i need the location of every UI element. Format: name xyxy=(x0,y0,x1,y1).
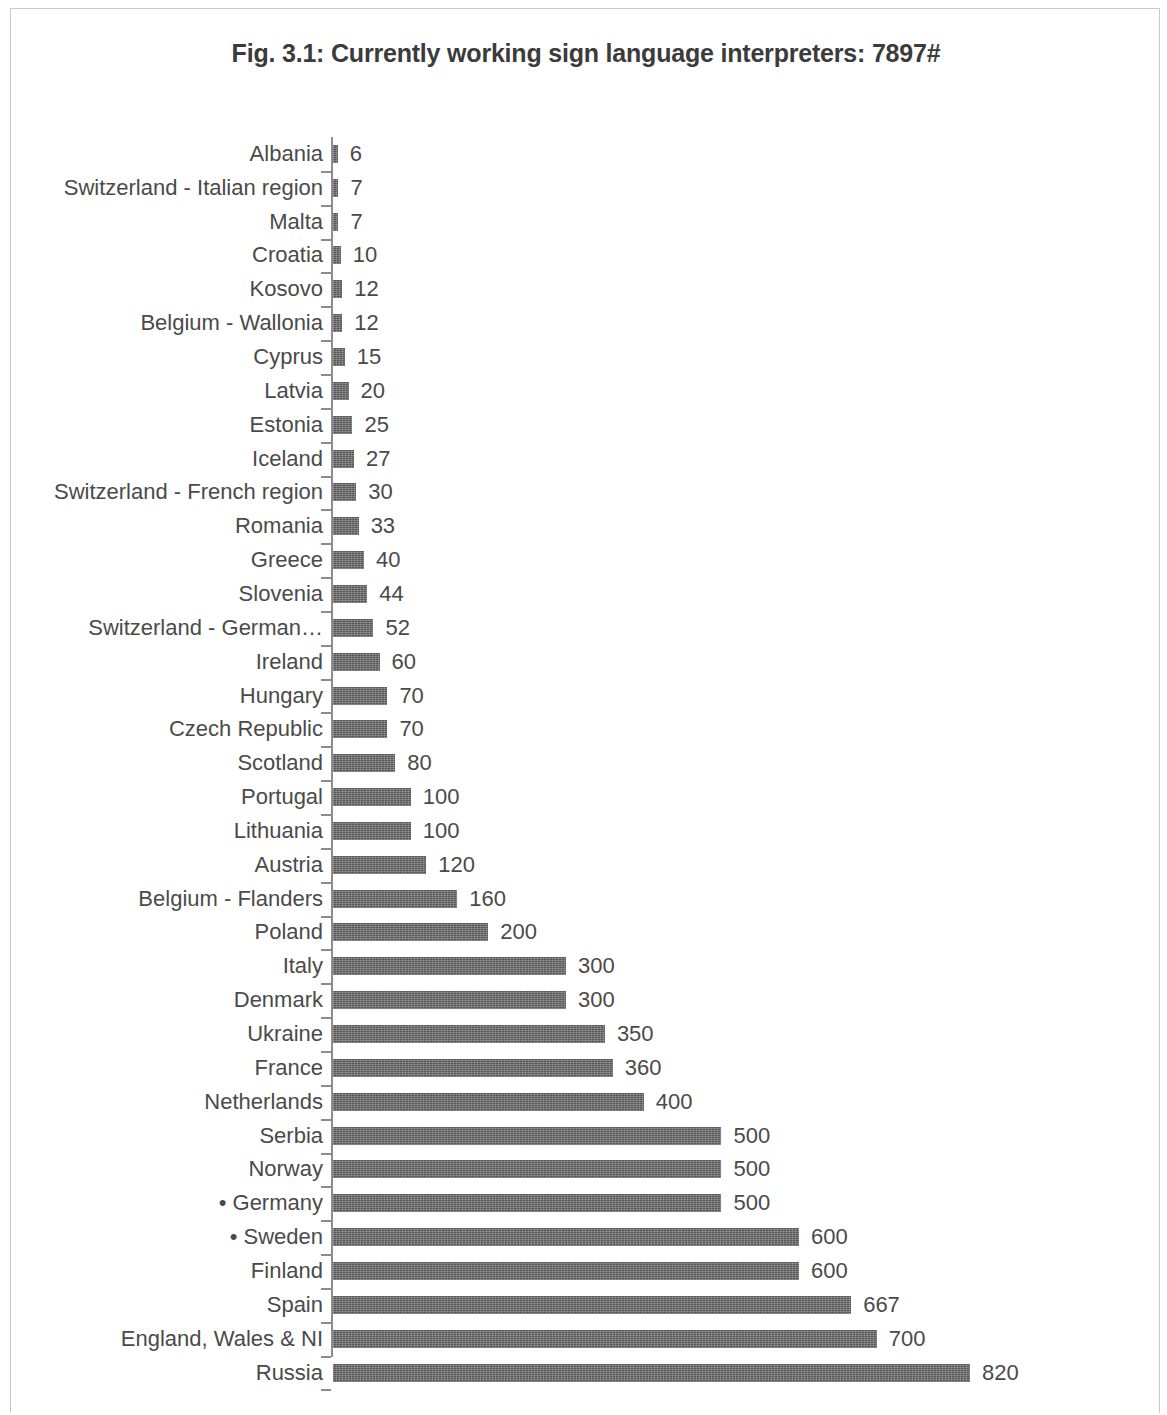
bar-category-label: Latvia xyxy=(264,378,323,404)
bar-value-label: 500 xyxy=(733,1190,770,1216)
bar-fill[interactable] xyxy=(333,923,488,941)
bar-fill[interactable] xyxy=(333,1262,799,1280)
bar-value-label: 820 xyxy=(982,1360,1019,1386)
bar-fill[interactable] xyxy=(333,619,373,637)
bar-value-label: 12 xyxy=(354,310,378,336)
bar-row[interactable]: Czech Republic70 xyxy=(11,712,1161,746)
bar-row[interactable]: Switzerland - German…52 xyxy=(11,611,1161,645)
bar-fill[interactable] xyxy=(333,246,341,264)
bar-row[interactable]: Scotland80 xyxy=(11,746,1161,780)
bar-category-label: Austria xyxy=(255,852,323,878)
bar-fill[interactable] xyxy=(333,517,359,535)
bar-track xyxy=(333,314,342,332)
bar-row[interactable]: Ireland60 xyxy=(11,645,1161,679)
bar-row[interactable]: Croatia10 xyxy=(11,239,1161,273)
bar-value-label: 40 xyxy=(376,547,400,573)
bar-value-label: 10 xyxy=(353,242,377,268)
bar-fill[interactable] xyxy=(333,1364,970,1382)
bar-row[interactable]: Finland600 xyxy=(11,1254,1161,1288)
bar-value-label: 600 xyxy=(811,1258,848,1284)
bar-row[interactable]: Spain667 xyxy=(11,1288,1161,1322)
bar-row[interactable]: France360 xyxy=(11,1051,1161,1085)
bar-row[interactable]: Romania33 xyxy=(11,509,1161,543)
bar-fill[interactable] xyxy=(333,145,338,163)
bar-row[interactable]: Switzerland - Italian region7 xyxy=(11,171,1161,205)
bar-fill[interactable] xyxy=(333,450,354,468)
bar-row[interactable]: Netherlands400 xyxy=(11,1085,1161,1119)
bar-row[interactable]: Austria120 xyxy=(11,848,1161,882)
bar-fill[interactable] xyxy=(333,822,411,840)
bar-fill[interactable] xyxy=(333,551,364,569)
bar-value-label: 500 xyxy=(733,1123,770,1149)
bar-row[interactable]: Malta7 xyxy=(11,205,1161,239)
bar-value-label: 200 xyxy=(500,919,537,945)
bar-fill[interactable] xyxy=(333,585,367,603)
bar-fill[interactable] xyxy=(333,957,566,975)
bar-row[interactable]: Norway500 xyxy=(11,1153,1161,1187)
bar-row[interactable]: Portugal100 xyxy=(11,780,1161,814)
bar-track xyxy=(333,687,387,705)
bar-row[interactable]: Iceland27 xyxy=(11,442,1161,476)
bar-fill[interactable] xyxy=(333,890,457,908)
bar-row[interactable]: Belgium - Wallonia12 xyxy=(11,306,1161,340)
bar-row[interactable]: Slovenia44 xyxy=(11,577,1161,611)
bar-row[interactable]: Ukraine350 xyxy=(11,1017,1161,1051)
bar-row[interactable]: Greece40 xyxy=(11,543,1161,577)
bar-fill[interactable] xyxy=(333,754,395,772)
bar-value-label: 6 xyxy=(350,141,362,167)
bar-category-label: Spain xyxy=(267,1292,323,1318)
bar-row[interactable]: Estonia25 xyxy=(11,408,1161,442)
bar-category-label: England, Wales & NI xyxy=(121,1326,323,1352)
bar-fill[interactable] xyxy=(333,1296,851,1314)
bar-track xyxy=(333,450,354,468)
bar-fill[interactable] xyxy=(333,788,411,806)
bar-row[interactable]: Kosovo12 xyxy=(11,272,1161,306)
bar-category-label: Greece xyxy=(251,547,323,573)
bar-row[interactable]: Lithuania100 xyxy=(11,814,1161,848)
bar-row[interactable]: Belgium - Flanders160 xyxy=(11,882,1161,916)
bar-row[interactable]: Denmark300 xyxy=(11,983,1161,1017)
bar-value-label: 44 xyxy=(379,581,403,607)
bar-track xyxy=(333,1059,613,1077)
bar-row[interactable]: Cyprus15 xyxy=(11,340,1161,374)
bar-fill[interactable] xyxy=(333,179,338,197)
bar-fill[interactable] xyxy=(333,314,342,332)
bar-fill[interactable] xyxy=(333,1059,613,1077)
bar-fill[interactable] xyxy=(333,483,356,501)
bar-fill[interactable] xyxy=(333,1160,721,1178)
bar-fill[interactable] xyxy=(333,213,338,231)
bar-row[interactable]: Italy300 xyxy=(11,949,1161,983)
bar-row[interactable]: Latvia20 xyxy=(11,374,1161,408)
bar-row[interactable]: • Sweden600 xyxy=(11,1220,1161,1254)
bar-fill[interactable] xyxy=(333,1330,877,1348)
bar-row[interactable]: Hungary70 xyxy=(11,679,1161,713)
bar-fill[interactable] xyxy=(333,348,345,366)
bar-category-label: Lithuania xyxy=(234,818,323,844)
bar-fill[interactable] xyxy=(333,687,387,705)
bar-fill[interactable] xyxy=(333,720,387,738)
bar-row[interactable]: Albania6 xyxy=(11,137,1161,171)
bar-fill[interactable] xyxy=(333,1127,721,1145)
bar-row[interactable]: Poland200 xyxy=(11,916,1161,950)
bar-row[interactable]: England, Wales & NI700 xyxy=(11,1322,1161,1356)
bar-fill[interactable] xyxy=(333,1093,644,1111)
bar-row[interactable]: Serbia500 xyxy=(11,1119,1161,1153)
bar-fill[interactable] xyxy=(333,280,342,298)
bar-fill[interactable] xyxy=(333,1025,605,1043)
bar-value-label: 33 xyxy=(371,513,395,539)
bar-track xyxy=(333,1262,799,1280)
bar-fill[interactable] xyxy=(333,382,349,400)
bar-value-label: 500 xyxy=(733,1156,770,1182)
bar-fill[interactable] xyxy=(333,653,380,671)
bar-fill[interactable] xyxy=(333,416,352,434)
bar-value-label: 600 xyxy=(811,1224,848,1250)
bar-fill[interactable] xyxy=(333,856,426,874)
bar-row[interactable]: • Germany500 xyxy=(11,1186,1161,1220)
bar-value-label: 100 xyxy=(423,784,460,810)
bar-row[interactable]: Russia820 xyxy=(11,1356,1161,1390)
bar-row[interactable]: Switzerland - French region30 xyxy=(11,476,1161,510)
bar-fill[interactable] xyxy=(333,991,566,1009)
bar-fill[interactable] xyxy=(333,1228,799,1246)
bar-track xyxy=(333,416,352,434)
bar-fill[interactable] xyxy=(333,1194,721,1212)
